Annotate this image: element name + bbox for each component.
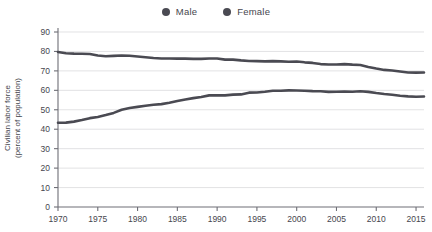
- x-tick-label: 2000: [287, 214, 306, 224]
- x-tick-label: 1970: [49, 214, 68, 224]
- x-tick-label: 1995: [247, 214, 266, 224]
- y-tick-label: 90: [41, 27, 51, 37]
- x-axis-ticks: 1970197519801985199019952000200520102015: [49, 207, 426, 224]
- x-tick-label: 1985: [168, 214, 187, 224]
- x-tick-label: 1990: [208, 214, 227, 224]
- x-tick-label: 1975: [88, 214, 107, 224]
- x-tick-label: 2015: [407, 214, 426, 224]
- y-tick-label: 70: [41, 66, 51, 76]
- y-tick-label: 40: [41, 124, 51, 134]
- series-line-female: [58, 90, 424, 122]
- data-series-group: [58, 52, 424, 123]
- x-tick-label: 1980: [128, 214, 147, 224]
- y-tick-label: 20: [41, 163, 51, 173]
- y-axis-ticks: 0102030405060708090: [41, 27, 58, 212]
- y-tick-label: 10: [41, 183, 51, 193]
- labor-force-participation-chart: Male Female Civilian labor force (percen…: [0, 0, 432, 232]
- x-tick-label: 2010: [367, 214, 386, 224]
- x-tick-label: 2005: [327, 214, 346, 224]
- series-line-male: [58, 52, 424, 73]
- y-tick-label: 50: [41, 105, 51, 115]
- plot-area: 0102030405060708090 19701975198019851990…: [0, 0, 432, 232]
- y-tick-label: 80: [41, 46, 51, 56]
- y-tick-label: 60: [41, 85, 51, 95]
- y-tick-label: 30: [41, 144, 51, 154]
- y-tick-label: 0: [45, 202, 50, 212]
